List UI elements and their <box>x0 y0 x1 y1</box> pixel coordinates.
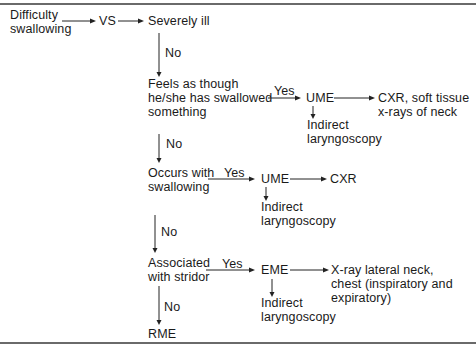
occurs-node-line2: swallowing <box>148 180 209 195</box>
stridor-result-line2: chest (inspiratory and <box>331 277 453 292</box>
swallowed-exam-node: UME <box>306 91 334 106</box>
swallowed-node-line2: he/she has swallowed <box>148 91 272 106</box>
swallowed-result-line2: x-rays of neck <box>378 105 457 120</box>
swallowed-node-line3: something <box>148 105 207 120</box>
stridor-sub-line2: laryngoscopy <box>261 310 336 325</box>
yes-label-1: Yes <box>274 84 295 99</box>
no-label-2: No <box>166 137 182 152</box>
vs-node: VS <box>99 14 116 29</box>
stridor-sub-line1: Indirect <box>261 296 303 311</box>
stridor-exam-node: EME <box>261 263 288 278</box>
stridor-result-line1: X-ray lateral neck, <box>331 263 434 278</box>
occurs-result-node: CXR <box>330 172 357 187</box>
occurs-node-line1: Occurs with <box>148 166 214 181</box>
no-label-3: No <box>161 225 177 240</box>
start-node-line1: Difficulty <box>10 8 58 23</box>
no-label-4: No <box>164 300 180 315</box>
occurs-sub-line1: Indirect <box>261 200 303 215</box>
stridor-node-line1: Associated <box>148 256 210 271</box>
no-label-1: No <box>165 46 181 61</box>
occurs-exam-node: UME <box>261 172 289 187</box>
yes-label-2: Yes <box>224 166 245 181</box>
stridor-node-line2: with stridor <box>148 270 210 285</box>
start-node-line2: swallowing <box>10 22 71 37</box>
swallowed-result-line1: CXR, soft tissue <box>378 91 469 106</box>
occurs-sub-line2: laryngoscopy <box>261 214 336 229</box>
swallowed-sub-line2: laryngoscopy <box>307 132 382 147</box>
swallowed-sub-line1: Indirect <box>307 118 349 133</box>
end-node: RME <box>148 327 176 342</box>
yes-label-3: Yes <box>222 257 243 272</box>
severely-ill-node: Severely ill <box>148 14 210 29</box>
stridor-result-line3: expiratory) <box>331 291 391 306</box>
swallowed-node-line1: Feels as though <box>148 77 238 92</box>
